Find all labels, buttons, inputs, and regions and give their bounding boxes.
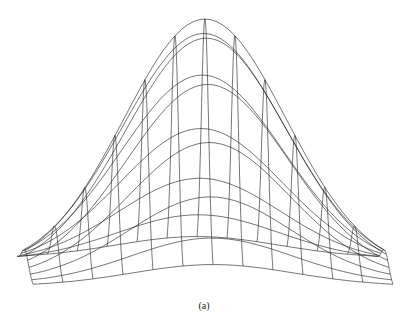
mesh-line — [28, 84, 388, 260]
wireframe-gaussian-surface — [0, 0, 408, 330]
mesh-line — [33, 265, 393, 285]
mesh-line — [287, 135, 303, 274]
mesh-line — [77, 187, 93, 279]
surface-mesh — [17, 19, 393, 284]
mesh-line — [26, 38, 386, 254]
figure-caption: (a) — [0, 300, 408, 311]
mesh-line — [24, 33, 384, 249]
mesh-line — [30, 197, 390, 274]
mesh-line — [197, 19, 213, 265]
mesh-line — [107, 135, 123, 274]
mesh-line — [257, 80, 273, 270]
mesh-line — [227, 36, 243, 266]
mesh-line — [29, 143, 389, 268]
